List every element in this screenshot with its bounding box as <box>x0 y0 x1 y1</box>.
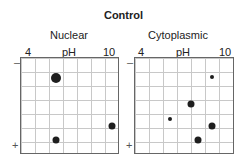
panel-title-cytoplasmic: Cytoplasmic <box>127 29 229 41</box>
protein-spot <box>51 73 61 83</box>
protein-spot <box>168 117 172 121</box>
figure-title: Control <box>0 9 247 21</box>
protein-spot <box>209 123 216 130</box>
gel-grid-cytoplasmic <box>134 57 234 154</box>
protein-spot <box>195 137 202 144</box>
sign-minus: – <box>127 56 133 68</box>
protein-spot <box>188 101 195 108</box>
protein-spot <box>210 75 214 79</box>
gel-grid-nuclear <box>20 57 119 154</box>
sign-plus: + <box>12 139 18 151</box>
protein-spot <box>109 123 116 130</box>
panel-title-nuclear: Nuclear <box>20 29 118 41</box>
protein-spot <box>53 137 60 144</box>
sign-plus: + <box>126 139 132 151</box>
